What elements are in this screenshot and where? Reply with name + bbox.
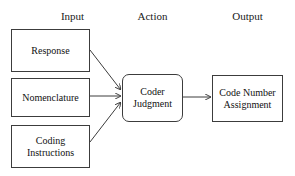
node-nomenclature: Nomenclature [11, 78, 90, 117]
node-response-label: Response [31, 45, 69, 57]
node-nomenclature-label: Nomenclature [22, 92, 79, 104]
node-coding-instructions: Coding Instructions [11, 125, 90, 168]
node-response: Response [11, 29, 90, 72]
node-code-number-assignment: Code Number Assignment [212, 75, 283, 122]
column-header-action: Action [115, 10, 190, 22]
edge-coding-instructions-to-coder-judgment [90, 103, 121, 143]
node-coder-judgment: Coder Judgment [122, 74, 183, 122]
node-coder-judgment-label: Coder Judgment [125, 86, 180, 110]
flow-diagram: Input Action Output Response Nomenclatur… [0, 0, 295, 176]
node-coding-instructions-label: Coding Instructions [14, 135, 87, 159]
node-code-number-assignment-label: Code Number Assignment [215, 87, 280, 111]
column-header-input: Input [35, 10, 110, 22]
edge-response-to-coder-judgment [90, 50, 121, 90]
column-header-output: Output [210, 10, 285, 22]
